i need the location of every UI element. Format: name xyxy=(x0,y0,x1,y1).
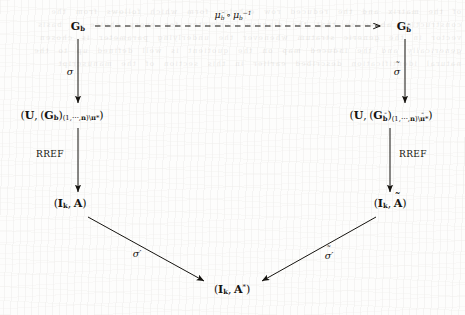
node-mid-left: (U, (Gb)(1,⋯,n)\π*) xyxy=(21,110,104,123)
node-top-right: Gb xyxy=(397,21,411,34)
diagram-edges xyxy=(0,0,465,315)
commutative-diagram-figure: of the matrix and the reduced row echelo… xyxy=(0,0,465,315)
node-bottom-right: (Ik, A) xyxy=(374,198,407,211)
edge-left-diagonal-sigma-prime xyxy=(88,217,204,281)
edge-label-rref-right: RREF xyxy=(399,150,427,159)
node-center-bottom: (Ik, A*) xyxy=(214,284,250,297)
edge-label-sigma-tilde-prime: σ′ xyxy=(325,251,334,261)
edge-label-top-horizontal: μb ∘ μb−1 xyxy=(214,10,251,21)
node-mid-right: (U, (Gb)(1,⋯,n)\π*) xyxy=(350,110,433,123)
edge-right-diagonal-sigma-tilde-prime xyxy=(262,217,376,281)
edge-label-sigma-prime: σ′ xyxy=(133,249,142,259)
node-bottom-left: (Ik, A) xyxy=(54,198,87,211)
edge-label-sigma: σ xyxy=(67,67,74,77)
edge-label-rref-left: RREF xyxy=(36,150,64,159)
edge-label-sigma-tilde: σ xyxy=(394,67,401,77)
node-top-left: Gb xyxy=(71,21,85,34)
